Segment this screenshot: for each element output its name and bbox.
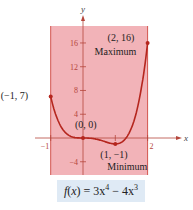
y-tick-label: 8	[74, 86, 78, 95]
extremum-label: Minimum	[107, 161, 147, 172]
x-axis-label: x	[183, 133, 188, 143]
x-tick-label: −1	[41, 142, 50, 151]
y-tick-label: 12	[70, 63, 78, 72]
chart: −4481216 −12 x y (−1, 7)(0, 0)(1, −1)Min…	[0, 0, 193, 210]
x-tick-label: 2	[150, 142, 154, 151]
critical-point	[81, 136, 85, 140]
critical-point	[49, 94, 53, 98]
critical-point	[113, 142, 117, 146]
critical-point	[146, 41, 150, 45]
y-axis-label: y	[80, 4, 85, 14]
y-tick-label: 4	[74, 110, 78, 119]
y-tick-label: 16	[70, 39, 78, 48]
y-axis-arrow	[81, 15, 85, 21]
x-axis-arrow	[176, 136, 182, 140]
extremum-label: Maximum	[95, 46, 137, 57]
point-label: (0, 0)	[75, 119, 97, 131]
point-label: (2, 16)	[108, 32, 135, 44]
y-tick-label: −4	[69, 158, 78, 167]
point-label: (−1, 7)	[1, 90, 28, 102]
function-formula: f(x) = 3x4 − 4x3	[57, 180, 145, 202]
point-label: (1, −1)	[100, 149, 127, 161]
